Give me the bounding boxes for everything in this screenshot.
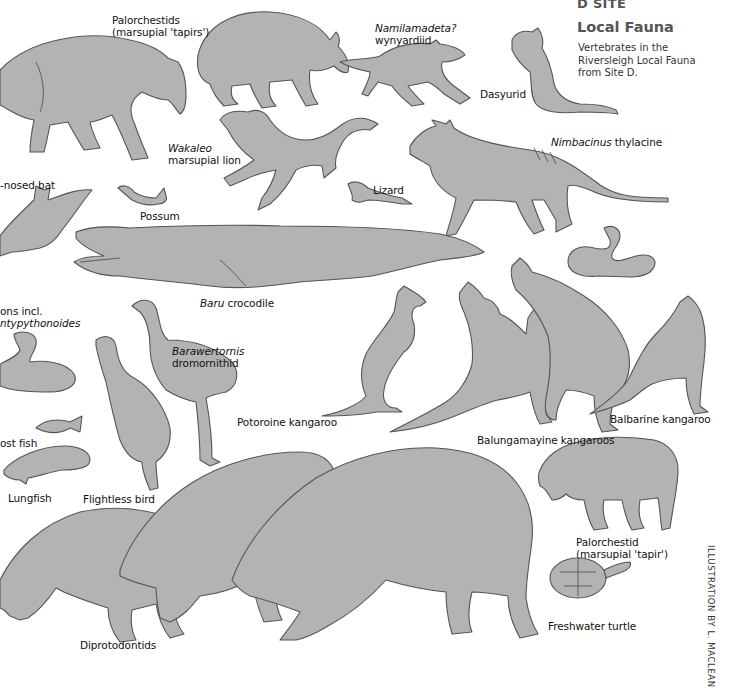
bat-silhouette xyxy=(0,186,92,256)
palorchestid-medium-silhouette xyxy=(198,12,349,108)
label-line: Palorchestid xyxy=(576,536,668,548)
label-line: marsupial lion xyxy=(168,154,241,166)
label-thylacine: Nimbacinus thylacine xyxy=(551,136,662,148)
lungfish-silhouette xyxy=(4,446,90,484)
label-bat: -nosed bat xyxy=(0,179,55,191)
bony-fish-silhouette xyxy=(36,416,82,433)
label-pythons: ons incl. ntypythonoides xyxy=(0,305,80,329)
palorchestid-large-silhouette xyxy=(0,36,186,160)
label-potoroine-kangaroo: Potoroine kangaroo xyxy=(237,416,337,428)
label-line: wynyardiid xyxy=(375,34,456,46)
label-possum: Possum xyxy=(140,210,180,222)
label-line: (marsupial 'tapir') xyxy=(576,548,668,560)
python-silhouette xyxy=(0,332,75,392)
label-italic-name: Nimbacinus xyxy=(551,136,612,148)
crocodile-silhouette xyxy=(74,225,484,287)
label-line: crocodile xyxy=(224,297,274,309)
label-diprotodontids: Diprotodontids xyxy=(80,639,156,651)
label-palorchestid: Palorchestid (marsupial 'tapir') xyxy=(576,536,668,560)
turtle-silhouette xyxy=(550,558,631,598)
snake-silhouette xyxy=(568,226,655,277)
label-italic-name: Namilamadeta? xyxy=(375,22,456,34)
potoroine-kangaroo-silhouette xyxy=(322,286,426,416)
site-heading: D SITE xyxy=(577,0,626,11)
label-italic-name: Baru xyxy=(200,297,224,309)
balungamayine-kangaroos-silhouette xyxy=(390,258,630,432)
possum-silhouette xyxy=(118,186,167,205)
label-crocodile: Baru crocodile xyxy=(200,297,274,309)
label-italic-name: ntypythonoides xyxy=(0,317,80,329)
wynyardiid-silhouette xyxy=(340,40,470,106)
label-wynyardiid: Namilamadeta? wynyardiid xyxy=(375,22,456,46)
label-italic-name: Barawertornis xyxy=(172,345,244,357)
label-flightless-bird: Flightless bird xyxy=(83,493,155,505)
illustration-credit: ILLUSTRATION BY L. MACLEAN xyxy=(706,545,716,688)
label-line: Palorchestids xyxy=(112,14,209,26)
label-lungfish: Lungfish xyxy=(8,492,52,504)
label-italic-name: Wakaleo xyxy=(168,142,212,154)
label-balungamayine-kangaroos: Balungamayine kangaroos xyxy=(477,434,614,446)
label-bony-fish: ost fish xyxy=(0,437,37,449)
label-line: thylacine xyxy=(612,136,662,148)
page-title: Local Fauna xyxy=(577,19,674,35)
label-line: ons incl. xyxy=(0,305,80,317)
label-freshwater-turtle: Freshwater turtle xyxy=(548,620,636,632)
label-marsupial-lion: Wakaleo marsupial lion xyxy=(168,142,241,166)
label-line: (marsupial 'tapirs') xyxy=(112,26,209,38)
label-dromornithid: Barawertornis dromornithid xyxy=(172,345,244,369)
description-text: Vertebrates in the Riversleigh Local Fau… xyxy=(578,42,718,80)
palorchestid-small-silhouette xyxy=(539,437,679,530)
label-line: dromornithid xyxy=(172,357,244,369)
label-lizard: Lizard xyxy=(373,184,404,196)
label-palorchestids: Palorchestids (marsupial 'tapirs') xyxy=(112,14,209,38)
label-balbarine-kangaroo: Balbarine kangaroo xyxy=(610,413,711,425)
label-dasyurid: Dasyurid xyxy=(480,88,526,100)
